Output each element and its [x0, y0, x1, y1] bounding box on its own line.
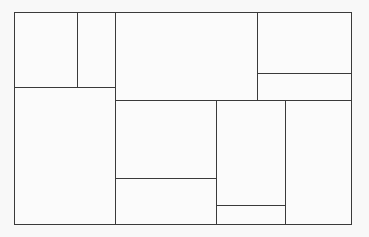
diagram-canvas: [0, 0, 369, 237]
partition-cell-e: [257, 73, 352, 101]
partition-cell-i: [216, 100, 286, 206]
partition-cell-b: [77, 12, 116, 88]
partition-cell-h: [115, 178, 217, 225]
partition-cell-g: [115, 100, 217, 179]
partition-cell-c: [115, 12, 258, 101]
partition-cell-d: [257, 12, 352, 74]
partition-cell-f: [14, 87, 116, 225]
partition-cell-j: [216, 205, 286, 225]
partition-cell-a: [14, 12, 78, 88]
partition-cell-k: [285, 100, 352, 225]
